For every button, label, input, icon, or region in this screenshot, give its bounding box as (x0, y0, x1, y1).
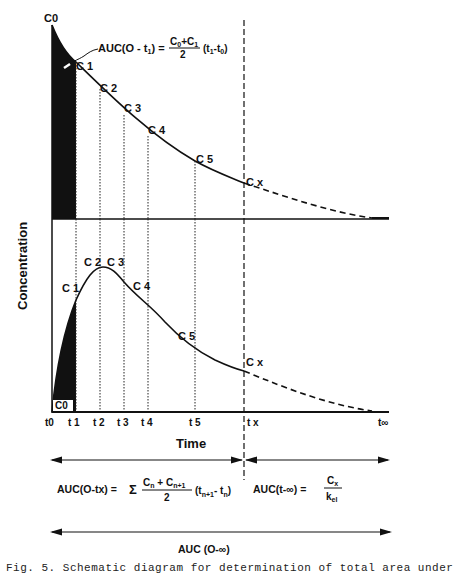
span-arrow-0-tx (50, 457, 243, 464)
formula-auc-total: AUC (O-∞) (178, 543, 230, 555)
svg-text:C0+C1: C0+C1 (170, 36, 198, 48)
formula-auc-0-t1: AUC(O - t1) = C0+C1 2 (t1-t0) (98, 36, 228, 60)
svg-text:Cx: Cx (327, 475, 338, 487)
svg-text:(t1-t0): (t1-t0) (203, 43, 228, 55)
bottom-label-c2: C 2 (84, 256, 101, 268)
top-label-c2: C 2 (100, 82, 117, 94)
bottom-label-c3: C 3 (107, 256, 124, 268)
top-sampling-lines (76, 62, 195, 219)
top-label-c5: C 5 (196, 153, 213, 165)
top-label-c4: C 4 (148, 124, 166, 136)
x-axis-title: Time (176, 436, 206, 451)
svg-text:t 3: t 3 (117, 417, 129, 428)
bottom-extrapolated-curve (244, 371, 372, 411)
svg-text:t∞: t∞ (378, 417, 388, 428)
top-extrapolated-curve (244, 183, 372, 218)
top-shaded-area-t0-t1 (52, 25, 76, 219)
svg-text:Σ: Σ (129, 482, 137, 497)
bottom-label-c5: C 5 (178, 330, 195, 342)
formula-auc-0-tx: AUC(O-tx) = Σ Cn + Cn+1 2 (tn+1- tn) (57, 477, 231, 503)
y-axis-title: Concentration (15, 222, 30, 310)
bottom-label-c0: C0 (55, 400, 68, 411)
bottom-label-cx: C x (246, 356, 264, 368)
svg-text:2: 2 (164, 492, 170, 503)
svg-text:t 5: t 5 (189, 417, 201, 428)
bottom-label-c1: C 1 (62, 282, 79, 294)
svg-text:Cn + Cn+1: Cn + Cn+1 (143, 477, 186, 489)
span-arrow-0-inf (50, 529, 392, 536)
svg-text:t x: t x (247, 417, 259, 428)
top-label-c3: C 3 (124, 102, 141, 114)
svg-text:2: 2 (180, 49, 186, 60)
bottom-shaded-area-t0-t1 (52, 300, 76, 412)
bottom-sampling-lines (76, 219, 195, 412)
bottom-label-c4: C 4 (133, 280, 151, 292)
svg-text:kel: kel (326, 491, 337, 503)
figure-caption: Fig. 5. Schematic diagram for determinat… (6, 562, 416, 574)
svg-text:t 2: t 2 (93, 417, 105, 428)
svg-text:AUC(t-∞) =: AUC(t-∞) = (253, 483, 306, 495)
top-label-cx: C x (246, 176, 264, 188)
svg-text:t 1: t 1 (68, 417, 80, 428)
formula-auc-t-inf: AUC(t-∞) = Cx kel (253, 475, 342, 503)
svg-text:(tn+1- tn): (tn+1- tn) (195, 485, 231, 498)
top-label-c0: C0 (44, 12, 58, 24)
svg-text:AUC(O - t1) =: AUC(O - t1) = (98, 42, 165, 55)
x-tick-labels: t0 t 1 t 2 t 3 t 4 t 5 t x t∞ (45, 417, 388, 428)
svg-text:t0: t0 (45, 417, 54, 428)
svg-text:AUC(O-tx) =: AUC(O-tx) = (57, 483, 117, 495)
top-label-c1: C 1 (76, 60, 93, 72)
span-arrow-tx-inf (245, 457, 390, 464)
svg-text:t 4: t 4 (141, 417, 153, 428)
